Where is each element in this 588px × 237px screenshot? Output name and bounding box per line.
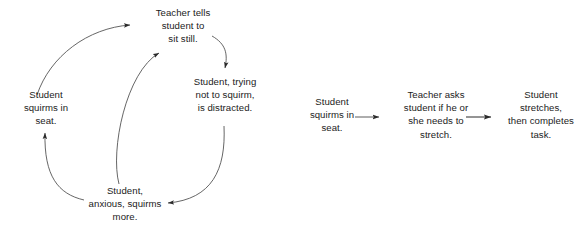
node-student-trying-not-to-squirm: Student, trying not to squirm, is distra… — [172, 75, 278, 115]
edge-anxious-to-teacher — [117, 53, 159, 184]
node-teacher-tells-sit-still: Teacher tells student to sit still. — [137, 6, 229, 46]
node-linear-student-stretches-completes-task: Student stretches, then completes task. — [495, 88, 587, 141]
edge-squirms-to-teacher — [37, 25, 130, 95]
node-linear-teacher-asks-stretch: Teacher asks student if he or she needs … — [384, 88, 488, 141]
node-student-squirms-in-seat: Student squirms in seat. — [4, 88, 88, 128]
node-student-anxious-squirms-more: Student, anxious, squirms more. — [70, 184, 180, 224]
flowchart-canvas: Teacher tells student to sit still. Stud… — [0, 0, 588, 237]
node-linear-student-squirms-in-seat: Student squirms in seat. — [290, 95, 374, 135]
